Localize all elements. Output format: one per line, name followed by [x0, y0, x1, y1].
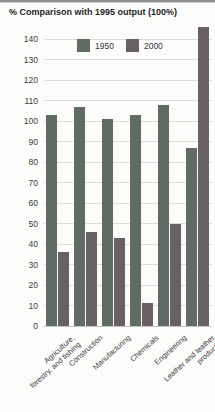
bar-1950-5 — [186, 148, 197, 326]
y-tick-label-80: 80 — [8, 157, 38, 167]
legend-label-2000: 2000 — [144, 41, 163, 51]
y-tick-label-90: 90 — [8, 137, 38, 147]
legend-swatch-2000 — [126, 39, 139, 52]
bar-2000-3 — [142, 303, 153, 326]
bar-2000-2 — [114, 238, 125, 326]
bar-1950-1 — [74, 107, 85, 326]
bar-2000-0 — [58, 252, 69, 326]
y-tick-label-140: 140 — [8, 34, 38, 44]
plot-area — [44, 27, 212, 326]
gridline-130 — [44, 59, 212, 60]
chart-title: % Comparison with 1995 output (100%) — [9, 7, 211, 17]
y-tick-label-0: 0 — [8, 321, 38, 331]
bar-1950-4 — [158, 105, 169, 326]
bar-1950-0 — [46, 115, 57, 326]
chart-image: % Comparison with 1995 output (100%) 195… — [0, 0, 215, 412]
legend-item-1950: 1950 — [77, 39, 114, 52]
bar-1950-2 — [102, 119, 113, 326]
y-tick-label-100: 100 — [8, 116, 38, 126]
y-tick-label-50: 50 — [8, 219, 38, 229]
y-tick-label-60: 60 — [8, 198, 38, 208]
y-tick-label-110: 110 — [8, 96, 38, 106]
y-tick-label-40: 40 — [8, 239, 38, 249]
scan-top-edge-light — [0, 2, 215, 3]
y-tick-label-30: 30 — [8, 260, 38, 270]
y-tick-label-70: 70 — [8, 178, 38, 188]
bar-1950-3 — [130, 115, 141, 326]
y-tick-label-10: 10 — [8, 301, 38, 311]
y-tick-label-130: 130 — [8, 55, 38, 65]
gridline-120 — [44, 80, 212, 81]
bar-2000-4 — [170, 224, 181, 326]
y-tick-label-20: 20 — [8, 280, 38, 290]
gridline-100 — [44, 121, 212, 122]
bar-2000-5 — [198, 27, 209, 326]
legend-item-2000: 2000 — [126, 39, 163, 52]
gridline-110 — [44, 100, 212, 101]
legend-swatch-1950 — [77, 39, 90, 52]
legend: 1950 2000 — [77, 39, 163, 52]
legend-label-1950: 1950 — [95, 41, 114, 51]
bar-2000-1 — [86, 232, 97, 326]
y-tick-label-120: 120 — [8, 75, 38, 85]
gridline-90 — [44, 141, 212, 142]
